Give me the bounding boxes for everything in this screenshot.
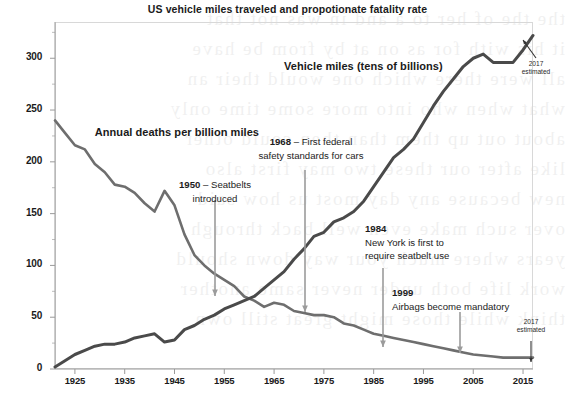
annotation-line-2: safety standards for cars <box>258 149 363 163</box>
annotation-line-2: Airbags become mandatory <box>392 300 509 314</box>
estimate-qualifier: estimated <box>522 68 551 76</box>
annotation-seatbelts-1950: 1950 – Seatbeltsintroduced <box>179 178 251 205</box>
arrows-layer <box>212 40 536 362</box>
annotation-dash: – <box>200 179 211 190</box>
y-axis-tick-label: 200 <box>8 155 42 166</box>
series-line-vehicle-miles <box>55 35 533 366</box>
annotation-text-1: First federal <box>302 136 353 147</box>
estimate-arrow-deaths-2017-estimated <box>529 341 533 362</box>
annotation-year: 1950 <box>179 179 200 190</box>
annotation-line-1: 1968 – First federal <box>258 135 363 149</box>
series-label-vehicle-miles: Vehicle miles (tens of billions) <box>284 60 443 72</box>
estimate-qualifier: estimated <box>517 326 546 334</box>
annotation-year: 1968 <box>270 136 291 147</box>
x-axis-tick-label: 1935 <box>105 375 145 386</box>
x-axis-tick-label: 2015 <box>503 375 543 386</box>
annotation-federal-standards-1968: 1968 – First federalsafety standards for… <box>258 135 363 162</box>
series-label-deaths: Annual deaths per billion miles <box>95 126 259 138</box>
y-axis-tick-label: 100 <box>8 258 42 269</box>
y-axis-tick-label: 300 <box>8 51 42 62</box>
annotation-ny-seatbelt-1984: 1984New York is first torequire seatbelt… <box>365 222 449 263</box>
annotation-airbags-1999: 1999Airbags become mandatory <box>392 286 509 313</box>
annotation-line-1: 1950 – Seatbelts <box>179 178 251 192</box>
series-layer <box>55 35 533 366</box>
x-axis-tick-label: 1955 <box>204 375 244 386</box>
annotation-arrow-federal-standards-1968 <box>302 170 308 312</box>
annotation-dash: – <box>291 136 302 147</box>
annotation-line-2: New York is first to <box>365 236 449 250</box>
annotation-line-2: introduced <box>179 192 251 206</box>
annotation-line-3: require seatbelt use <box>365 249 449 263</box>
annotation-arrow-seatbelts-1950 <box>212 200 218 296</box>
y-axis-tick-label: 50 <box>8 310 42 321</box>
x-axis-tick-label: 1995 <box>403 375 443 386</box>
estimate-label-vehicle-miles-2017-estimated: 2017estimated <box>522 60 551 76</box>
annotation-line-1: 1984 <box>365 222 449 236</box>
x-axis-tick-label: 1965 <box>254 375 294 386</box>
y-axis-tick-label: 250 <box>8 103 42 114</box>
x-axis-tick-label: 1945 <box>155 375 195 386</box>
x-axis-tick-label: 1975 <box>304 375 344 386</box>
annotation-year: 1999 <box>392 287 413 298</box>
x-axis-tick-label: 1925 <box>55 375 95 386</box>
annotation-text-1: Seatbelts <box>211 179 251 190</box>
x-axis-tick-label: 1985 <box>354 375 394 386</box>
chart-page: the the of her to a and in was not that … <box>0 0 575 399</box>
y-axis-tick-label: 150 <box>8 207 42 218</box>
x-axis-tick-label: 2005 <box>453 375 493 386</box>
estimate-year: 2017 <box>517 318 546 326</box>
estimate-label-deaths-2017-estimated: 2017estimated <box>517 318 546 334</box>
annotation-arrow-airbags-1999 <box>457 312 463 353</box>
annotation-year: 1984 <box>365 223 386 234</box>
annotation-line-1: 1999 <box>392 286 509 300</box>
y-axis-tick-label: 0 <box>8 362 42 373</box>
estimate-year: 2017 <box>522 60 551 68</box>
